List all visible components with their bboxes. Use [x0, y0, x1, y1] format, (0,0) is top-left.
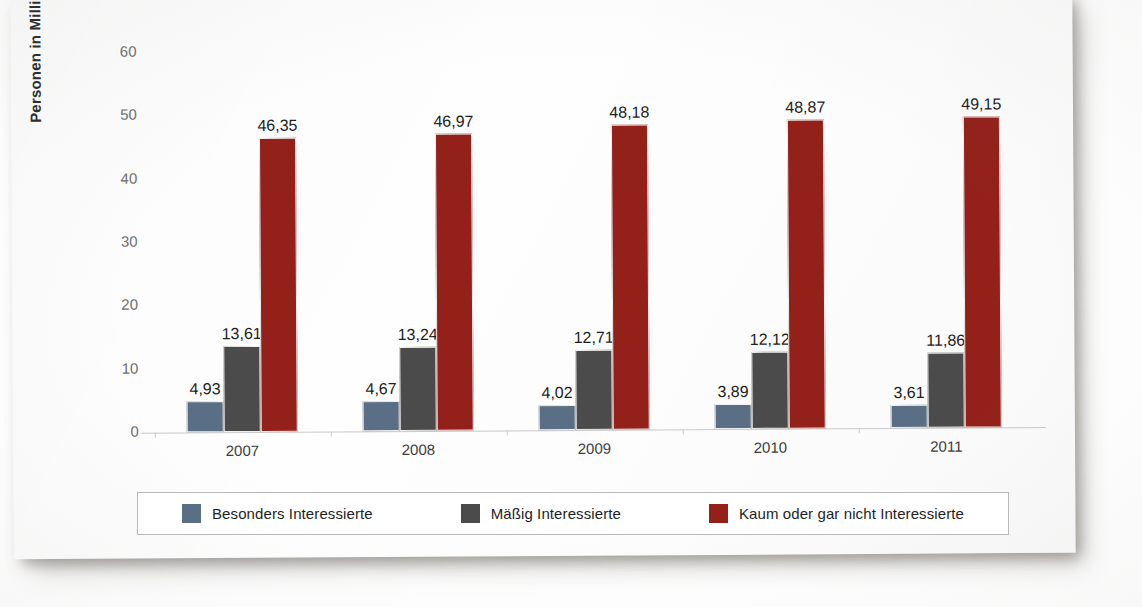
- bar-value-label: 4,93: [189, 380, 220, 398]
- bar-2007-series-1[interactable]: 13,61: [223, 346, 261, 432]
- y-axis-ticks: 6050403020100: [86, 3, 140, 607]
- x-axis-tickmark: [507, 430, 508, 435]
- x-axis-tickmark: [155, 433, 156, 438]
- bar-2008-series-0[interactable]: 4,67: [363, 401, 400, 431]
- x-tick-label-2007: 2007: [202, 442, 282, 459]
- bar-value-label: 13,24: [398, 326, 438, 344]
- bar-2010-series-2[interactable]: 48,87: [787, 119, 826, 429]
- legend-swatch-icon: [709, 504, 728, 523]
- x-tick-label-2011: 2011: [906, 437, 986, 454]
- bar-value-label: 3,89: [717, 383, 748, 401]
- bar-2009-series-0[interactable]: 4,02: [539, 405, 576, 431]
- bar-value-label: 12,12: [750, 331, 790, 349]
- y-tick-label: 30: [92, 233, 138, 250]
- bar-2010-series-1[interactable]: 12,12: [751, 352, 788, 429]
- y-tick-label: 40: [91, 169, 137, 186]
- legend-item-2[interactable]: Kaum oder gar nicht Interessierte: [709, 504, 964, 523]
- chart-legend: Besonders InteressierteMäßig Interessier…: [137, 492, 1009, 535]
- bar-group-2009: 4,0212,7148,18: [536, 50, 538, 430]
- legend-item-1[interactable]: Mäßig Interessierte: [461, 504, 621, 523]
- bar-2008-series-1[interactable]: 13,24: [399, 347, 437, 431]
- bar-2008-series-2[interactable]: 46,97: [435, 133, 474, 431]
- y-tick-label: 50: [91, 106, 137, 123]
- bar-2007-series-0[interactable]: 4,93: [187, 401, 224, 432]
- bar-value-label: 11,86: [926, 331, 965, 349]
- bar-group-2010: 3,8912,1248,87: [712, 49, 714, 429]
- legend-label: Kaum oder gar nicht Interessierte: [739, 505, 964, 522]
- x-axis-tickmark: [683, 429, 684, 434]
- x-axis-tickmark: [859, 428, 860, 433]
- bar-value-label: 46,35: [257, 117, 297, 135]
- bar-2009-series-2[interactable]: 48,18: [611, 124, 650, 429]
- bar-2011-series-1[interactable]: 11,86: [927, 352, 964, 427]
- bar-value-label: 4,67: [365, 381, 396, 399]
- bar-group-2011: 3,6111,8649,15: [888, 48, 890, 428]
- legend-swatch-icon: [461, 504, 480, 523]
- plot-area: 4,9313,6146,354,6713,2446,974,0212,7148,…: [144, 47, 1026, 432]
- bar-2009-series-1[interactable]: 12,71: [575, 349, 612, 430]
- y-tick-label: 60: [90, 43, 136, 60]
- bar-group-2008: 4,6713,2446,97: [360, 51, 362, 431]
- bar-value-label: 13,61: [222, 325, 262, 343]
- bar-value-label: 3,61: [893, 384, 924, 402]
- bar-value-label: 4,02: [541, 384, 572, 402]
- bar-group-2007: 4,9313,6146,35: [184, 52, 186, 432]
- legend-item-0[interactable]: Besonders Interessierte: [182, 504, 373, 523]
- bar-value-label: 12,71: [574, 328, 614, 346]
- legend-label: Besonders Interessierte: [212, 505, 373, 522]
- x-axis-tickmark: [331, 431, 332, 436]
- y-axis-title: Personen in Millionen: [26, 0, 44, 163]
- x-tick-label-2009: 2009: [554, 440, 634, 457]
- legend-swatch-icon: [182, 504, 201, 523]
- y-tick-label: 0: [93, 423, 139, 440]
- bar-value-label: 49,15: [961, 95, 1001, 113]
- bar-2010-series-0[interactable]: 3,89: [715, 404, 752, 429]
- y-tick-label: 10: [92, 359, 138, 376]
- bar-value-label: 46,97: [433, 112, 473, 130]
- bar-2011-series-2[interactable]: 49,15: [963, 116, 1002, 428]
- bar-value-label: 48,18: [609, 103, 649, 121]
- bar-value-label: 48,87: [785, 98, 825, 116]
- x-tick-label-2010: 2010: [730, 439, 810, 456]
- legend-label: Mäßig Interessierte: [491, 505, 621, 522]
- y-tick-label: 20: [92, 296, 138, 313]
- bar-2007-series-2[interactable]: 46,35: [259, 138, 298, 432]
- x-tick-label-2008: 2008: [378, 441, 458, 458]
- bar-2011-series-0[interactable]: 3,61: [891, 405, 928, 428]
